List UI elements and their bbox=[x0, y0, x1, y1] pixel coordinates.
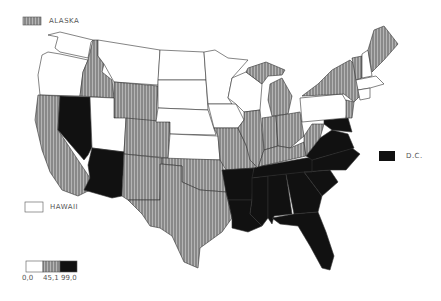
state-fl bbox=[272, 212, 334, 270]
alaska-swatch bbox=[23, 17, 41, 25]
state-az bbox=[84, 148, 124, 198]
state-or bbox=[38, 52, 88, 96]
legend-high bbox=[60, 261, 77, 272]
legend-value-mid: 45,1 bbox=[43, 274, 59, 282]
hawaii-label: HAWAII bbox=[50, 203, 78, 211]
state-sd bbox=[158, 80, 208, 110]
state-pa bbox=[300, 94, 348, 122]
state-nj bbox=[346, 100, 354, 118]
state-nd bbox=[158, 50, 206, 80]
dc-label: D.C. bbox=[406, 152, 423, 160]
hawaii-swatch bbox=[25, 202, 43, 212]
state-ct bbox=[358, 88, 370, 100]
state-ks bbox=[168, 134, 220, 160]
state-me bbox=[368, 26, 398, 72]
legend-low bbox=[26, 261, 43, 272]
state-in bbox=[262, 116, 278, 150]
us-map bbox=[0, 0, 441, 301]
state-co bbox=[124, 118, 170, 158]
state-ar bbox=[222, 168, 254, 200]
dc-swatch bbox=[379, 151, 395, 161]
state-ia bbox=[208, 104, 244, 128]
alaska-label: ALASKA bbox=[49, 17, 79, 25]
state-mi-lower bbox=[268, 78, 292, 116]
legend-mid bbox=[43, 261, 60, 272]
state-oh bbox=[276, 112, 304, 148]
state-md bbox=[324, 118, 352, 132]
state-wy bbox=[114, 82, 158, 122]
state-nm bbox=[122, 154, 162, 200]
legend-value-high: 99,0 bbox=[61, 274, 77, 282]
legend-value-low: 0,0 bbox=[22, 274, 33, 282]
